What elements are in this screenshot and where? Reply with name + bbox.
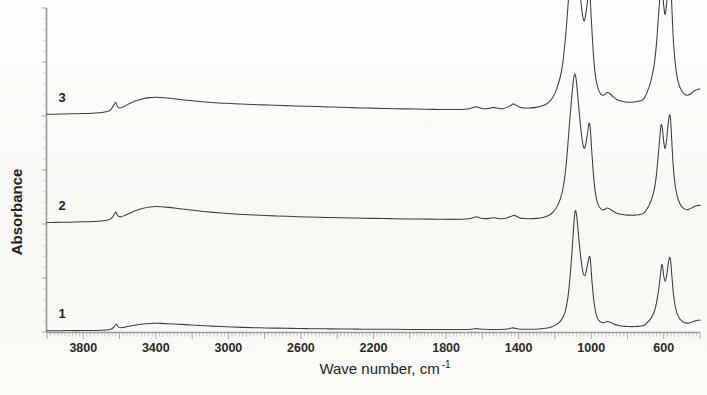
x-tick-label-600: 600 — [653, 341, 674, 355]
x-axis-title-main: Wave number, cm — [319, 360, 439, 377]
x-tick-label-1000: 1000 — [577, 341, 605, 355]
spectrum-trace-1 — [47, 211, 700, 331]
x-tick-label-2200: 2200 — [360, 341, 388, 355]
spectrum-trace-3 — [47, 0, 700, 114]
spectra-traces — [47, 0, 700, 331]
curve-label-1: 1 — [58, 306, 65, 321]
spectrum-trace-2 — [47, 74, 700, 223]
x-axis-title: Wave number, cm-1 — [319, 359, 451, 377]
spectra-plot: 123 38003400300026002200180014001000600 … — [0, 0, 707, 395]
x-axis-minor-ticks — [47, 333, 700, 339]
curve-labels: 123 — [58, 90, 65, 321]
x-tick-label-1400: 1400 — [505, 341, 533, 355]
x-tick-label-3000: 3000 — [214, 341, 242, 355]
curve-label-3: 3 — [58, 90, 65, 105]
curve-label-2: 2 — [58, 198, 65, 213]
x-axis-tick-labels: 38003400300026002200180014001000600 — [69, 341, 674, 355]
x-tick-label-3400: 3400 — [142, 341, 170, 355]
x-tick-label-2600: 2600 — [287, 341, 315, 355]
x-tick-label-3800: 3800 — [69, 341, 97, 355]
y-axis-title: Absorbance — [8, 169, 25, 256]
ftir-spectra-figure: 123 38003400300026002200180014001000600 … — [0, 0, 707, 395]
x-axis-title-superscript: -1 — [442, 359, 451, 370]
x-tick-label-1800: 1800 — [432, 341, 460, 355]
